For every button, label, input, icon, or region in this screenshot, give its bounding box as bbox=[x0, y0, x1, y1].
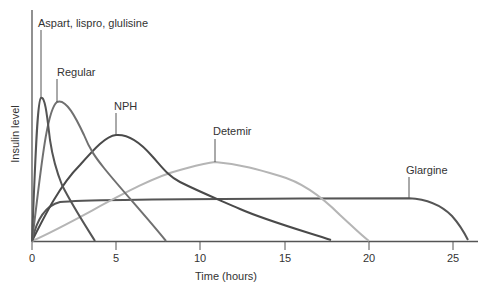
x-axis-title: Time (hours) bbox=[195, 270, 257, 282]
label-aspart-lispro-glulisine: Aspart, lispro, glulisine bbox=[38, 17, 148, 29]
x-tick-label: 15 bbox=[279, 252, 291, 264]
curve-glargine bbox=[32, 198, 468, 241]
x-tick-labels: 0 5 10 15 20 25 bbox=[29, 252, 459, 264]
insulin-action-chart: 0 5 10 15 20 25 Time (hours) Insulin lev… bbox=[0, 0, 494, 291]
curve-nph bbox=[32, 135, 331, 241]
label-nph: NPH bbox=[114, 100, 137, 112]
leader-lines bbox=[41, 30, 409, 199]
label-regular: Regular bbox=[57, 66, 96, 78]
label-detemir: Detemir bbox=[213, 125, 252, 137]
x-tick-label: 25 bbox=[447, 252, 459, 264]
x-tick-label: 5 bbox=[113, 252, 119, 264]
label-glargine: Glargine bbox=[406, 164, 448, 176]
y-axis-title: Insulin level bbox=[9, 105, 21, 162]
x-tick-label: 10 bbox=[194, 252, 206, 264]
curve-regular bbox=[32, 101, 166, 241]
x-tick-label: 0 bbox=[29, 252, 35, 264]
x-tick-label: 20 bbox=[363, 252, 375, 264]
x-ticks bbox=[32, 241, 453, 250]
